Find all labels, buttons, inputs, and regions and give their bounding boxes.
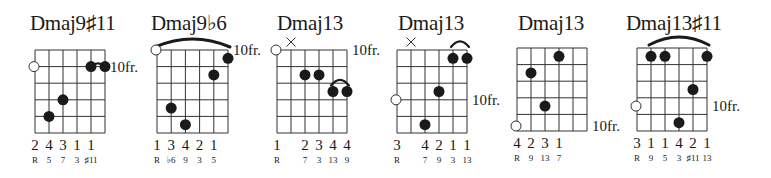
finger-dot-icon [100, 61, 111, 72]
fret-position-label: 10fr. [592, 118, 620, 134]
finger-dot-icon [420, 119, 431, 130]
finger-dot-icon [646, 51, 657, 62]
finger-number: 4 [510, 136, 524, 151]
finger-number: 4 [672, 136, 686, 151]
fret-position-label: 10fr. [712, 98, 740, 114]
chord-name: Dmaj13 [277, 11, 343, 35]
interval-label: 5 [206, 155, 222, 165]
interval-label: ♯11 [83, 155, 99, 165]
finger-number: 4 [178, 138, 192, 153]
finger-number: 1 [700, 136, 714, 151]
fret-position-label: 10fr. [472, 92, 500, 108]
root-open-circle-icon [631, 101, 641, 111]
root-open-circle-icon [391, 95, 401, 105]
finger-number: 4 [418, 138, 432, 153]
chord-diagram-sheet: Dmaj9♯1110fr.2R4537131♯11Dmaj9♭610fr.1R3… [0, 0, 771, 178]
root-open-circle-icon [511, 121, 521, 131]
finger-number: 3 [538, 136, 552, 151]
finger-dot-icon [660, 51, 671, 62]
finger-dot-icon [223, 53, 234, 64]
finger-number: 4 [326, 138, 340, 153]
root-open-circle-icon [29, 62, 39, 72]
finger-number: 1 [552, 136, 566, 151]
finger-number: 1 [270, 138, 284, 153]
interval-label: R [269, 155, 285, 165]
finger-number: 2 [686, 136, 700, 151]
interval-label: 13 [699, 153, 715, 163]
finger-number: 3 [630, 136, 644, 151]
finger-dot-icon [688, 84, 699, 95]
finger-dot-icon [300, 69, 311, 80]
interval-label: 13 [459, 155, 475, 165]
finger-dot-icon [554, 51, 565, 62]
finger-number: 1 [644, 136, 658, 151]
finger-dot-icon [208, 69, 219, 80]
fret-position-label: 10fr. [233, 42, 261, 58]
finger-number: 1 [207, 138, 221, 153]
finger-number: 2 [524, 136, 538, 151]
finger-number: 2 [432, 138, 446, 153]
finger-dot-icon [86, 61, 97, 72]
barre-arc-icon [155, 39, 230, 47]
finger-number: 4 [340, 138, 354, 153]
finger-dot-icon [434, 86, 445, 97]
finger-number: 1 [70, 138, 84, 153]
interval-label: 9 [339, 155, 355, 165]
finger-number: 1 [150, 138, 164, 153]
finger-number: 2 [298, 138, 312, 153]
finger-dot-icon [540, 101, 551, 112]
finger-dot-icon [328, 86, 339, 97]
finger-number: 1 [84, 138, 98, 153]
finger-number: 3 [164, 138, 178, 153]
finger-number: 3 [56, 138, 70, 153]
finger-dot-icon [342, 86, 353, 97]
barre-arc-icon [649, 37, 709, 45]
finger-number: 3 [312, 138, 326, 153]
fret-position-label: 10fr. [352, 42, 380, 58]
root-open-circle-icon [271, 45, 281, 55]
finger-dot-icon [180, 119, 191, 130]
finger-dot-icon [462, 53, 473, 64]
finger-number: 3 [390, 138, 404, 153]
fret-position-label: 10fr. [110, 59, 138, 75]
chord-name: Dmaj9♭6 [151, 11, 226, 35]
finger-dot-icon [166, 103, 177, 114]
finger-dot-icon [448, 53, 459, 64]
chord-name: Dmaj9♯11 [30, 11, 115, 35]
finger-number: 2 [193, 138, 207, 153]
finger-number: 1 [460, 138, 474, 153]
chord-name: Dmaj13♯11 [626, 11, 722, 35]
finger-number: 2 [28, 138, 42, 153]
chord-name: Dmaj13 [398, 11, 464, 35]
finger-number: 4 [42, 138, 56, 153]
finger-dot-icon [526, 67, 537, 78]
finger-dot-icon [314, 69, 325, 80]
finger-dot-icon [702, 51, 713, 62]
root-open-circle-icon [151, 45, 161, 55]
finger-dot-icon [58, 94, 69, 105]
interval-label: 7 [551, 153, 567, 163]
finger-dot-icon [674, 117, 685, 128]
finger-number: 1 [658, 136, 672, 151]
finger-number: 1 [446, 138, 460, 153]
barre-arc-icon [451, 41, 469, 47]
finger-dot-icon [44, 111, 55, 122]
chord-name: Dmaj13 [518, 11, 584, 35]
interval-label: R [389, 155, 405, 165]
